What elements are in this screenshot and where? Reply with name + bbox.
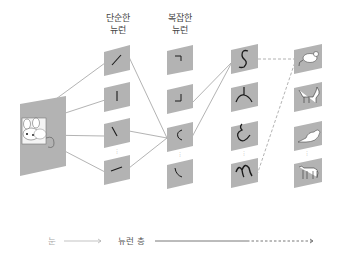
axis-label-eye: 눈 (48, 236, 56, 246)
diagram-graphics: ⋮ ⋮ ⋮ (0, 0, 342, 259)
svg-text:⋮: ⋮ (178, 151, 183, 157)
svg-text:⋮: ⋮ (305, 150, 310, 156)
dashed-connections (257, 59, 295, 175)
visual-cortex-diagram: 단순한 뉴런 복잡한 뉴런 (0, 0, 342, 259)
axis-arrows (64, 239, 313, 243)
svg-text:⋮: ⋮ (242, 150, 247, 156)
simple-neuron-panels: ⋮ (104, 45, 130, 185)
svg-text:⋮: ⋮ (115, 148, 120, 154)
higher-neuron-panels: ⋮ (231, 44, 258, 188)
input-eye-panel (20, 96, 66, 176)
axis-label-neuron-layers: 뉴런 층 (118, 236, 145, 246)
complex-neuron-panels: ⋮ (167, 45, 193, 189)
object-neuron-panels: ⋮ (294, 44, 322, 188)
